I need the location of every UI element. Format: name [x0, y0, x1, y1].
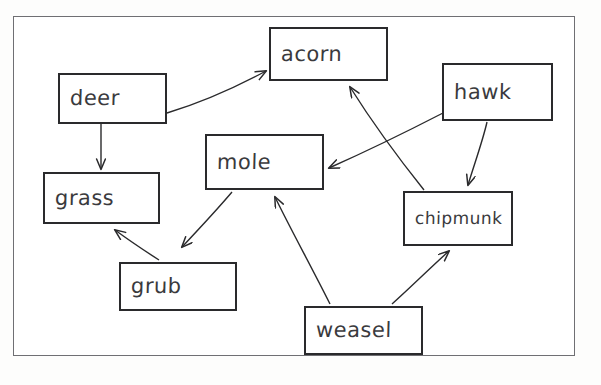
node-mole[interactable]: mole: [205, 134, 324, 190]
node-deer[interactable]: deer: [58, 73, 167, 124]
node-label-weasel: weasel: [316, 320, 392, 341]
node-chipmunk[interactable]: chipmunk: [403, 191, 513, 246]
node-acorn[interactable]: acorn: [269, 27, 388, 81]
node-label-mole: mole: [217, 152, 272, 173]
node-label-acorn: acorn: [281, 44, 343, 65]
node-label-grub: grub: [131, 276, 182, 297]
node-weasel[interactable]: weasel: [304, 306, 423, 355]
node-label-deer: deer: [70, 88, 120, 109]
node-label-grass: grass: [55, 188, 115, 209]
node-label-chipmunk: chipmunk: [415, 210, 503, 227]
node-label-hawk: hawk: [454, 82, 512, 103]
node-grub[interactable]: grub: [119, 262, 237, 311]
node-hawk[interactable]: hawk: [442, 63, 553, 121]
node-grass[interactable]: grass: [43, 172, 160, 224]
diagram-canvas: deer acorn hawk grass mole chipmunk grub…: [0, 0, 601, 385]
